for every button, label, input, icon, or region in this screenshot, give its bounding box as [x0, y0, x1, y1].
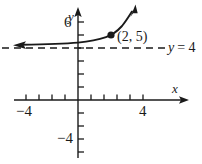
plotted-point-marker [107, 31, 114, 38]
asymptote-label-value: = 4 [177, 40, 195, 55]
point-coordinate-label: (2, 5) [117, 30, 147, 44]
curve-path [22, 12, 132, 45]
y-tick-label-6: 6 [64, 15, 72, 30]
graph-figure: y x 6 −4 −4 4 (2, 5) y= 4 [0, 0, 202, 164]
asymptote-equation-label: y= 4 [168, 41, 196, 55]
x-tick-label-negative-4: −4 [16, 104, 32, 119]
x-axis-name-label: x [172, 82, 178, 95]
x-axis [14, 95, 189, 104]
x-axis-ticks [26, 95, 143, 101]
y-axis [74, 7, 84, 158]
x-tick-label-4: 4 [139, 104, 147, 119]
asymptote-label-variable: y [168, 40, 174, 55]
y-tick-label-negative-4: −4 [57, 131, 73, 146]
